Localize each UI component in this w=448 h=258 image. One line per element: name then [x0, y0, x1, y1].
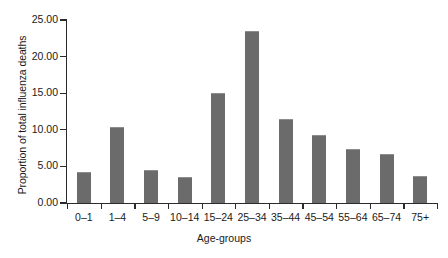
x-axis-tick-label: 75+ [403, 211, 437, 223]
x-axis-title: Age-groups [0, 232, 448, 244]
x-axis-tick-label: 35–44 [269, 211, 303, 223]
bar [245, 31, 259, 203]
y-axis-tick-label: 15.00 [26, 86, 58, 98]
bar [77, 172, 91, 203]
bar [380, 154, 394, 203]
x-axis-tick [370, 203, 371, 209]
y-axis-tick [60, 202, 67, 203]
x-axis-tick-label: 45–54 [302, 211, 336, 223]
bar [211, 93, 225, 203]
x-axis-tick [67, 203, 68, 209]
y-axis-tick [60, 19, 67, 20]
y-axis-tick-label: 0.00 [26, 196, 58, 208]
y-axis-tick [60, 166, 67, 167]
x-axis-tick-label: 15–24 [202, 211, 236, 223]
x-axis-tick-label: 25–34 [235, 211, 269, 223]
y-axis-title: Proportion of total influenza deaths [14, 15, 30, 215]
x-axis-tick [168, 203, 169, 209]
plot-area [67, 20, 437, 203]
y-axis-tick [60, 93, 67, 94]
x-axis-tick [101, 203, 102, 209]
bar [413, 176, 427, 203]
y-axis-tick-label: 5.00 [26, 159, 58, 171]
x-axis-tick-label: 10–14 [168, 211, 202, 223]
y-axis-tick [60, 129, 67, 130]
y-axis-tick-label: 20.00 [26, 50, 58, 62]
x-axis-tick [403, 203, 404, 209]
x-axis-tick [202, 203, 203, 209]
x-axis-tick-label: 5–9 [134, 211, 168, 223]
bar [312, 135, 326, 203]
y-axis-tick-label: 25.00 [26, 13, 58, 25]
y-axis-tick-label: 10.00 [26, 123, 58, 135]
x-axis-tick [302, 203, 303, 209]
x-axis-tick [336, 203, 337, 209]
x-axis-tick-label: 1–4 [101, 211, 135, 223]
x-axis-tick [269, 203, 270, 209]
bar-chart-figure: Proportion of total influenza deaths 0.0… [0, 0, 448, 258]
bar [110, 127, 124, 203]
x-axis-tick-label: 0–1 [67, 211, 101, 223]
x-axis-tick-label: 65–74 [370, 211, 404, 223]
bar [346, 149, 360, 203]
x-axis-tick [235, 203, 236, 209]
bar [178, 177, 192, 203]
bar [279, 119, 293, 203]
y-axis-tick [60, 56, 67, 57]
x-axis-tick-label: 55–64 [336, 211, 370, 223]
x-axis-tick [134, 203, 135, 209]
x-axis-tick [437, 203, 438, 209]
bar [144, 170, 158, 203]
